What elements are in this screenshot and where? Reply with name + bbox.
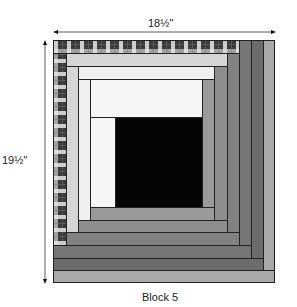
ring2-bottom-strip: [78, 220, 228, 233]
ring4-top-plaid-strip: [53, 40, 240, 54]
ring4-left-plaid-strip: [53, 53, 67, 246]
ring5-bottom-strip: [53, 258, 264, 271]
ring6-right-strip: [263, 40, 275, 271]
center-top-white-strip: [90, 79, 203, 118]
ring3-right-strip: [227, 53, 240, 233]
center-black-square: [115, 117, 203, 208]
ring3-top-strip: [66, 53, 228, 67]
ring6-bottom-strip: [53, 270, 275, 283]
height-dimension-label: 19½": [2, 154, 27, 166]
center-left-white-strip: [90, 117, 116, 208]
quilt-diagram: 18½" 19½" Block 5: [0, 0, 297, 307]
ring3-bottom-strip: [66, 232, 240, 246]
ring2-right-strip: [214, 66, 228, 221]
block-caption: Block 5: [142, 291, 178, 303]
ring5-right-strip: [251, 40, 264, 259]
height-arrow-icon: [43, 40, 47, 284]
ring4-right-strip: [239, 40, 252, 246]
ring1-right-strip: [202, 79, 215, 208]
ring1-bottom-strip: [90, 207, 215, 221]
ring4-bottom-strip: [53, 245, 252, 259]
width-arrow-icon: [53, 30, 276, 34]
ring2-top-strip: [78, 66, 215, 80]
